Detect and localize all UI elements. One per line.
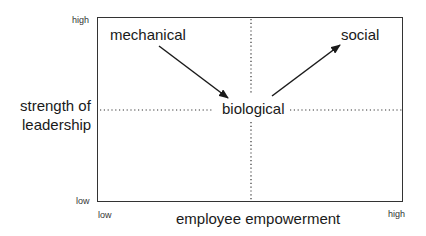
node-social: social (341, 26, 379, 43)
node-biological: biological (222, 100, 285, 117)
arrow-mechanical-to-biological (159, 46, 228, 98)
y-axis-title-line1: strength of (20, 97, 91, 114)
arrow-biological-to-social (272, 45, 340, 96)
x-axis-title: employee empowerment (176, 210, 340, 227)
x-axis-high-label: high (388, 209, 405, 219)
y-axis-title-line2: leadership (22, 116, 91, 133)
node-mechanical: mechanical (110, 26, 186, 43)
x-axis-low-label: low (98, 210, 112, 220)
y-axis-low-label: low (76, 196, 90, 206)
y-axis-high-label: high (72, 15, 89, 25)
